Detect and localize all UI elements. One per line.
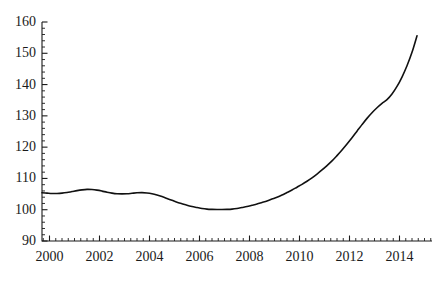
y-tick-label: 90 (4, 234, 36, 248)
x-tick-label: 2012 (328, 250, 372, 264)
y-tick-label: 140 (4, 78, 36, 92)
plot-area (0, 0, 446, 282)
x-tick-label: 2000 (28, 250, 72, 264)
line-chart: 90100110120130140150160 2000200220042006… (0, 0, 446, 282)
x-tick-label: 2014 (378, 250, 422, 264)
y-tick-label: 110 (4, 171, 36, 185)
x-tick-label: 2002 (78, 250, 122, 264)
data-series-group (42, 36, 417, 210)
x-tick-label: 2006 (178, 250, 222, 264)
x-tick-label: 2010 (278, 250, 322, 264)
y-tick-label: 100 (4, 203, 36, 217)
series-line (42, 36, 417, 210)
y-axis-ticks (42, 22, 48, 241)
x-axis-ticks (43, 236, 431, 242)
y-tick-label: 160 (4, 15, 36, 29)
y-tick-label: 130 (4, 109, 36, 123)
y-tick-label: 120 (4, 140, 36, 154)
y-tick-label: 150 (4, 46, 36, 60)
x-tick-label: 2004 (128, 250, 172, 264)
x-tick-label: 2008 (228, 250, 272, 264)
